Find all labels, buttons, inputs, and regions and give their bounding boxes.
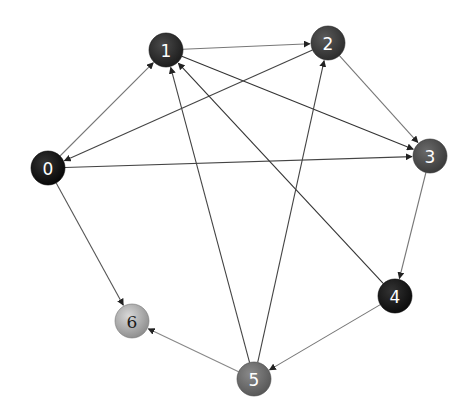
edge-5-to-2 <box>258 61 324 363</box>
node-5-label: 5 <box>249 370 260 390</box>
edge-2-to-0 <box>64 50 312 161</box>
edge-5-to-1 <box>171 67 250 362</box>
node-6-label: 6 <box>127 312 138 332</box>
directed-graph: 0 1 2 3 4 5 6 <box>0 0 473 418</box>
edge-4-to-5 <box>270 305 381 370</box>
node-0[interactable]: 0 <box>31 151 65 185</box>
edges-layer <box>56 44 426 372</box>
node-4[interactable]: 4 <box>378 279 412 313</box>
node-1-label: 1 <box>161 41 172 61</box>
edge-1-to-3 <box>182 56 413 149</box>
node-4-label: 4 <box>390 287 401 307</box>
edge-0-to-6 <box>56 183 123 305</box>
node-0-label: 0 <box>43 159 54 179</box>
edge-3-to-4 <box>399 173 426 279</box>
edge-1-to-2 <box>183 44 310 50</box>
node-2-label: 2 <box>323 34 334 54</box>
edge-0-to-3 <box>65 157 412 168</box>
nodes-layer: 0 1 2 3 4 5 6 <box>31 26 447 396</box>
node-1[interactable]: 1 <box>149 33 183 67</box>
edge-5-to-6 <box>148 329 238 372</box>
node-6[interactable]: 6 <box>115 304 149 338</box>
node-2[interactable]: 2 <box>311 26 345 60</box>
edge-2-to-3 <box>339 56 418 143</box>
node-3-label: 3 <box>425 147 436 167</box>
node-3[interactable]: 3 <box>413 139 447 173</box>
node-5[interactable]: 5 <box>237 362 271 396</box>
